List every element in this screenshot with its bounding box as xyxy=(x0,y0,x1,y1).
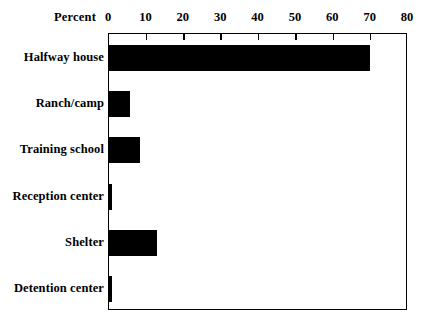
bar-row xyxy=(108,230,407,256)
bar xyxy=(108,91,130,117)
x-tick-label-70: 70 xyxy=(363,10,376,25)
x-tick-label-80: 80 xyxy=(401,10,414,25)
bar-row xyxy=(108,184,407,210)
x-axis-header: Percent 01020304050607080 xyxy=(0,10,428,30)
category-label: Reception center xyxy=(0,189,104,204)
bar xyxy=(108,276,112,302)
category-labels: Halfway houseRanch/campTraining schoolRe… xyxy=(0,33,104,310)
bar xyxy=(108,184,112,210)
bar xyxy=(108,45,370,71)
x-tick-label-60: 60 xyxy=(326,10,339,25)
bar xyxy=(108,230,157,256)
category-label: Shelter xyxy=(0,235,104,250)
x-tick-label-50: 50 xyxy=(289,10,302,25)
bar-row xyxy=(108,91,407,117)
category-label: Ranch/camp xyxy=(0,96,104,111)
x-tick-label-0: 0 xyxy=(105,10,111,25)
x-tick-label-20: 20 xyxy=(177,10,190,25)
bar-row xyxy=(108,45,407,71)
category-label: Halfway house xyxy=(0,50,104,65)
x-tick-label-10: 10 xyxy=(139,10,152,25)
bar-row xyxy=(108,276,407,302)
x-axis-title: Percent xyxy=(54,10,96,25)
bars-container xyxy=(108,33,407,310)
bar-row xyxy=(108,137,407,163)
category-label: Training school xyxy=(0,142,104,157)
bar xyxy=(108,137,140,163)
category-label: Detention center xyxy=(0,281,104,296)
x-tick-label-40: 40 xyxy=(251,10,264,25)
bar-chart: Percent 01020304050607080 Halfway houseR… xyxy=(0,0,428,328)
x-tick-label-30: 30 xyxy=(214,10,227,25)
